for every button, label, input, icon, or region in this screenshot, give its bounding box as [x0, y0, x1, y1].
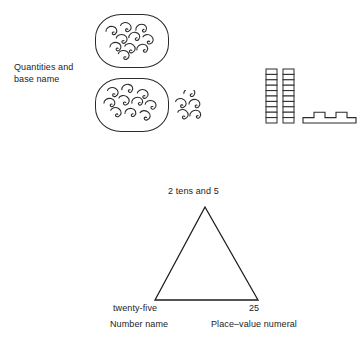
ten-rod-2-icon — [283, 69, 294, 123]
quantities-label-line2: base name — [14, 74, 100, 86]
bean-cluster-ten-2-icon — [96, 79, 168, 131]
five-unit-strip-icon — [303, 112, 356, 123]
label-place-value-numeral-caption: Place–value numeral — [211, 319, 297, 330]
bean-group-ten-1 — [95, 14, 169, 68]
diagram-canvas: Quantities and base name — [0, 0, 360, 350]
triangle-outline — [155, 207, 258, 300]
bean-cluster-ten-1-icon — [96, 15, 168, 67]
label-number-name-caption: Number name — [110, 319, 168, 330]
label-place-value-numeral-value: 25 — [249, 303, 259, 314]
quantities-and-base-name-label: Quantities and base name — [14, 62, 100, 85]
bean-group-five-ones — [172, 90, 208, 126]
bean-cluster-five-icon — [172, 90, 208, 126]
bean-group-ten-2 — [95, 78, 169, 132]
label-number-name-value: twenty-five — [113, 303, 157, 314]
quantities-label-line1: Quantities and — [14, 62, 100, 74]
label-expanded-form: 2 tens and 5 — [168, 186, 219, 197]
base-ten-blocks-group — [262, 66, 358, 130]
relationship-triangle — [120, 180, 320, 310]
ten-rod-1-icon — [266, 69, 277, 123]
